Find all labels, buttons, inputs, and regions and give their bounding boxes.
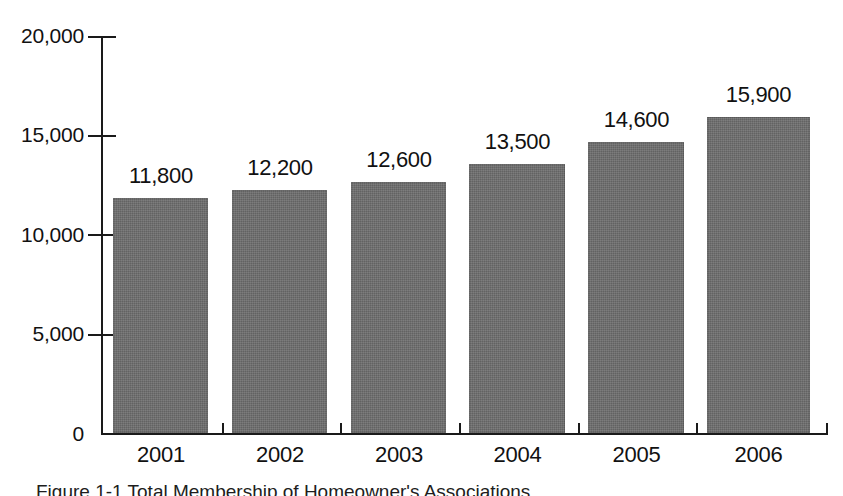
y-axis-tick-5000 [88, 334, 116, 336]
x-axis-category-2006: 2006 [705, 442, 812, 468]
y-axis-label-5000: 5,000 [0, 322, 84, 346]
x-axis-end-tick [826, 423, 828, 434]
x-axis-tick-2 [340, 423, 342, 434]
bar-2006 [707, 117, 810, 433]
x-axis-category-2003: 2003 [346, 442, 452, 468]
y-axis-label-10000: 10,000 [0, 223, 84, 247]
y-axis-tick-10000 [88, 234, 116, 236]
x-axis-tick-4 [578, 423, 580, 434]
y-axis-label-15000: 15,000 [0, 123, 84, 147]
bar-2004 [469, 164, 565, 433]
x-axis-tick-1 [222, 423, 224, 434]
x-axis-category-2005: 2005 [583, 442, 690, 468]
y-axis-tick-20000 [88, 36, 116, 38]
x-axis-line [101, 433, 828, 435]
x-axis-category-2004: 2004 [464, 442, 571, 468]
bar-2001 [113, 198, 208, 433]
bar-2002 [232, 190, 327, 433]
bar-chart-figure: 20,000 15,000 10,000 5,000 0 11,800 12,2… [0, 0, 843, 496]
bar-value-label-2003: 12,600 [346, 147, 452, 173]
bar-2003 [351, 182, 446, 433]
bar-value-label-2001: 11,800 [108, 163, 214, 189]
x-axis-category-2001: 2001 [108, 442, 214, 468]
x-axis-category-2002: 2002 [227, 442, 333, 468]
figure-caption: Figure 1-1 Total Membership of Homeowner… [36, 481, 826, 496]
y-axis-label-20000: 20,000 [0, 24, 84, 48]
y-axis-label-0: 0 [0, 422, 84, 446]
bar-2005 [588, 142, 684, 433]
x-axis-tick-5 [696, 423, 698, 434]
bar-value-label-2002: 12,200 [227, 155, 333, 181]
x-axis-tick-3 [459, 423, 461, 434]
bar-value-label-2004: 13,500 [464, 129, 571, 155]
bar-value-label-2005: 14,600 [583, 107, 690, 133]
y-axis-tick-15000 [88, 135, 116, 137]
bar-value-label-2006: 15,900 [705, 82, 812, 108]
